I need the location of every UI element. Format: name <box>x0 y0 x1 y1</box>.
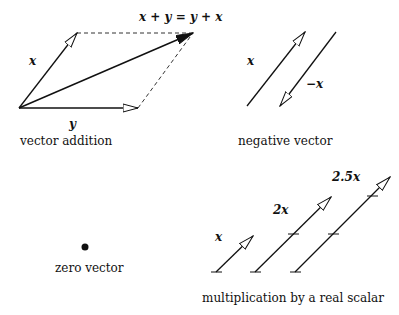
label-sum: x + y = y + x <box>139 10 222 24</box>
vector-neg-x-arrow <box>280 32 336 106</box>
zero-vector-dot <box>82 244 89 251</box>
label-2x: 2x <box>273 203 289 217</box>
label-x: x <box>29 54 36 68</box>
label-neg-x: −x <box>306 77 323 91</box>
label-25x: 2.5x <box>332 170 360 184</box>
negative-vector-panel <box>247 32 336 106</box>
caption-zero-vector: zero vector <box>55 261 124 275</box>
vector-x-arrow <box>19 33 77 108</box>
caption-negative-vector: negative vector <box>238 134 332 148</box>
label-1x: x <box>215 230 222 244</box>
label-y: y <box>69 117 76 131</box>
vector-25x-arrow <box>295 177 390 272</box>
caption-scalar-multiplication: multiplication by a real scalar <box>202 291 384 305</box>
vector-sum-arrow <box>19 33 193 108</box>
vector-addition-panel <box>19 33 193 108</box>
caption-vector-addition: vector addition <box>20 134 112 148</box>
vector-diagram: x y x + y = y + x vector addition x −x n… <box>0 0 399 315</box>
label-x: x <box>247 54 254 68</box>
vector-x-arrow <box>247 32 305 106</box>
scalar-multiplication-panel <box>211 177 390 272</box>
